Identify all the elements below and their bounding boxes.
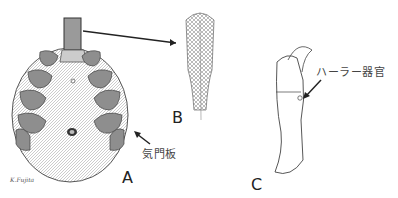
spiracular-plate-label: 気門板 bbox=[142, 145, 177, 161]
pointer-arrow-haller bbox=[306, 80, 321, 96]
panel-label-c: C bbox=[251, 175, 262, 194]
figure: B A C 気門板 ハーラー器官 K.Fujita bbox=[0, 0, 398, 198]
hypostome-drawing bbox=[186, 13, 214, 120]
panel-label-b: B bbox=[172, 108, 183, 127]
pointer-arrow-a-to-b bbox=[83, 31, 176, 43]
illustration-canvas bbox=[0, 0, 398, 198]
artist-signature: K.Fujita bbox=[10, 176, 34, 183]
tick-body-drawing bbox=[12, 18, 128, 182]
panel-label-a: A bbox=[122, 168, 133, 187]
tarsus-drawing bbox=[275, 47, 312, 174]
hallers-organ-label: ハーラー器官 bbox=[316, 63, 385, 79]
